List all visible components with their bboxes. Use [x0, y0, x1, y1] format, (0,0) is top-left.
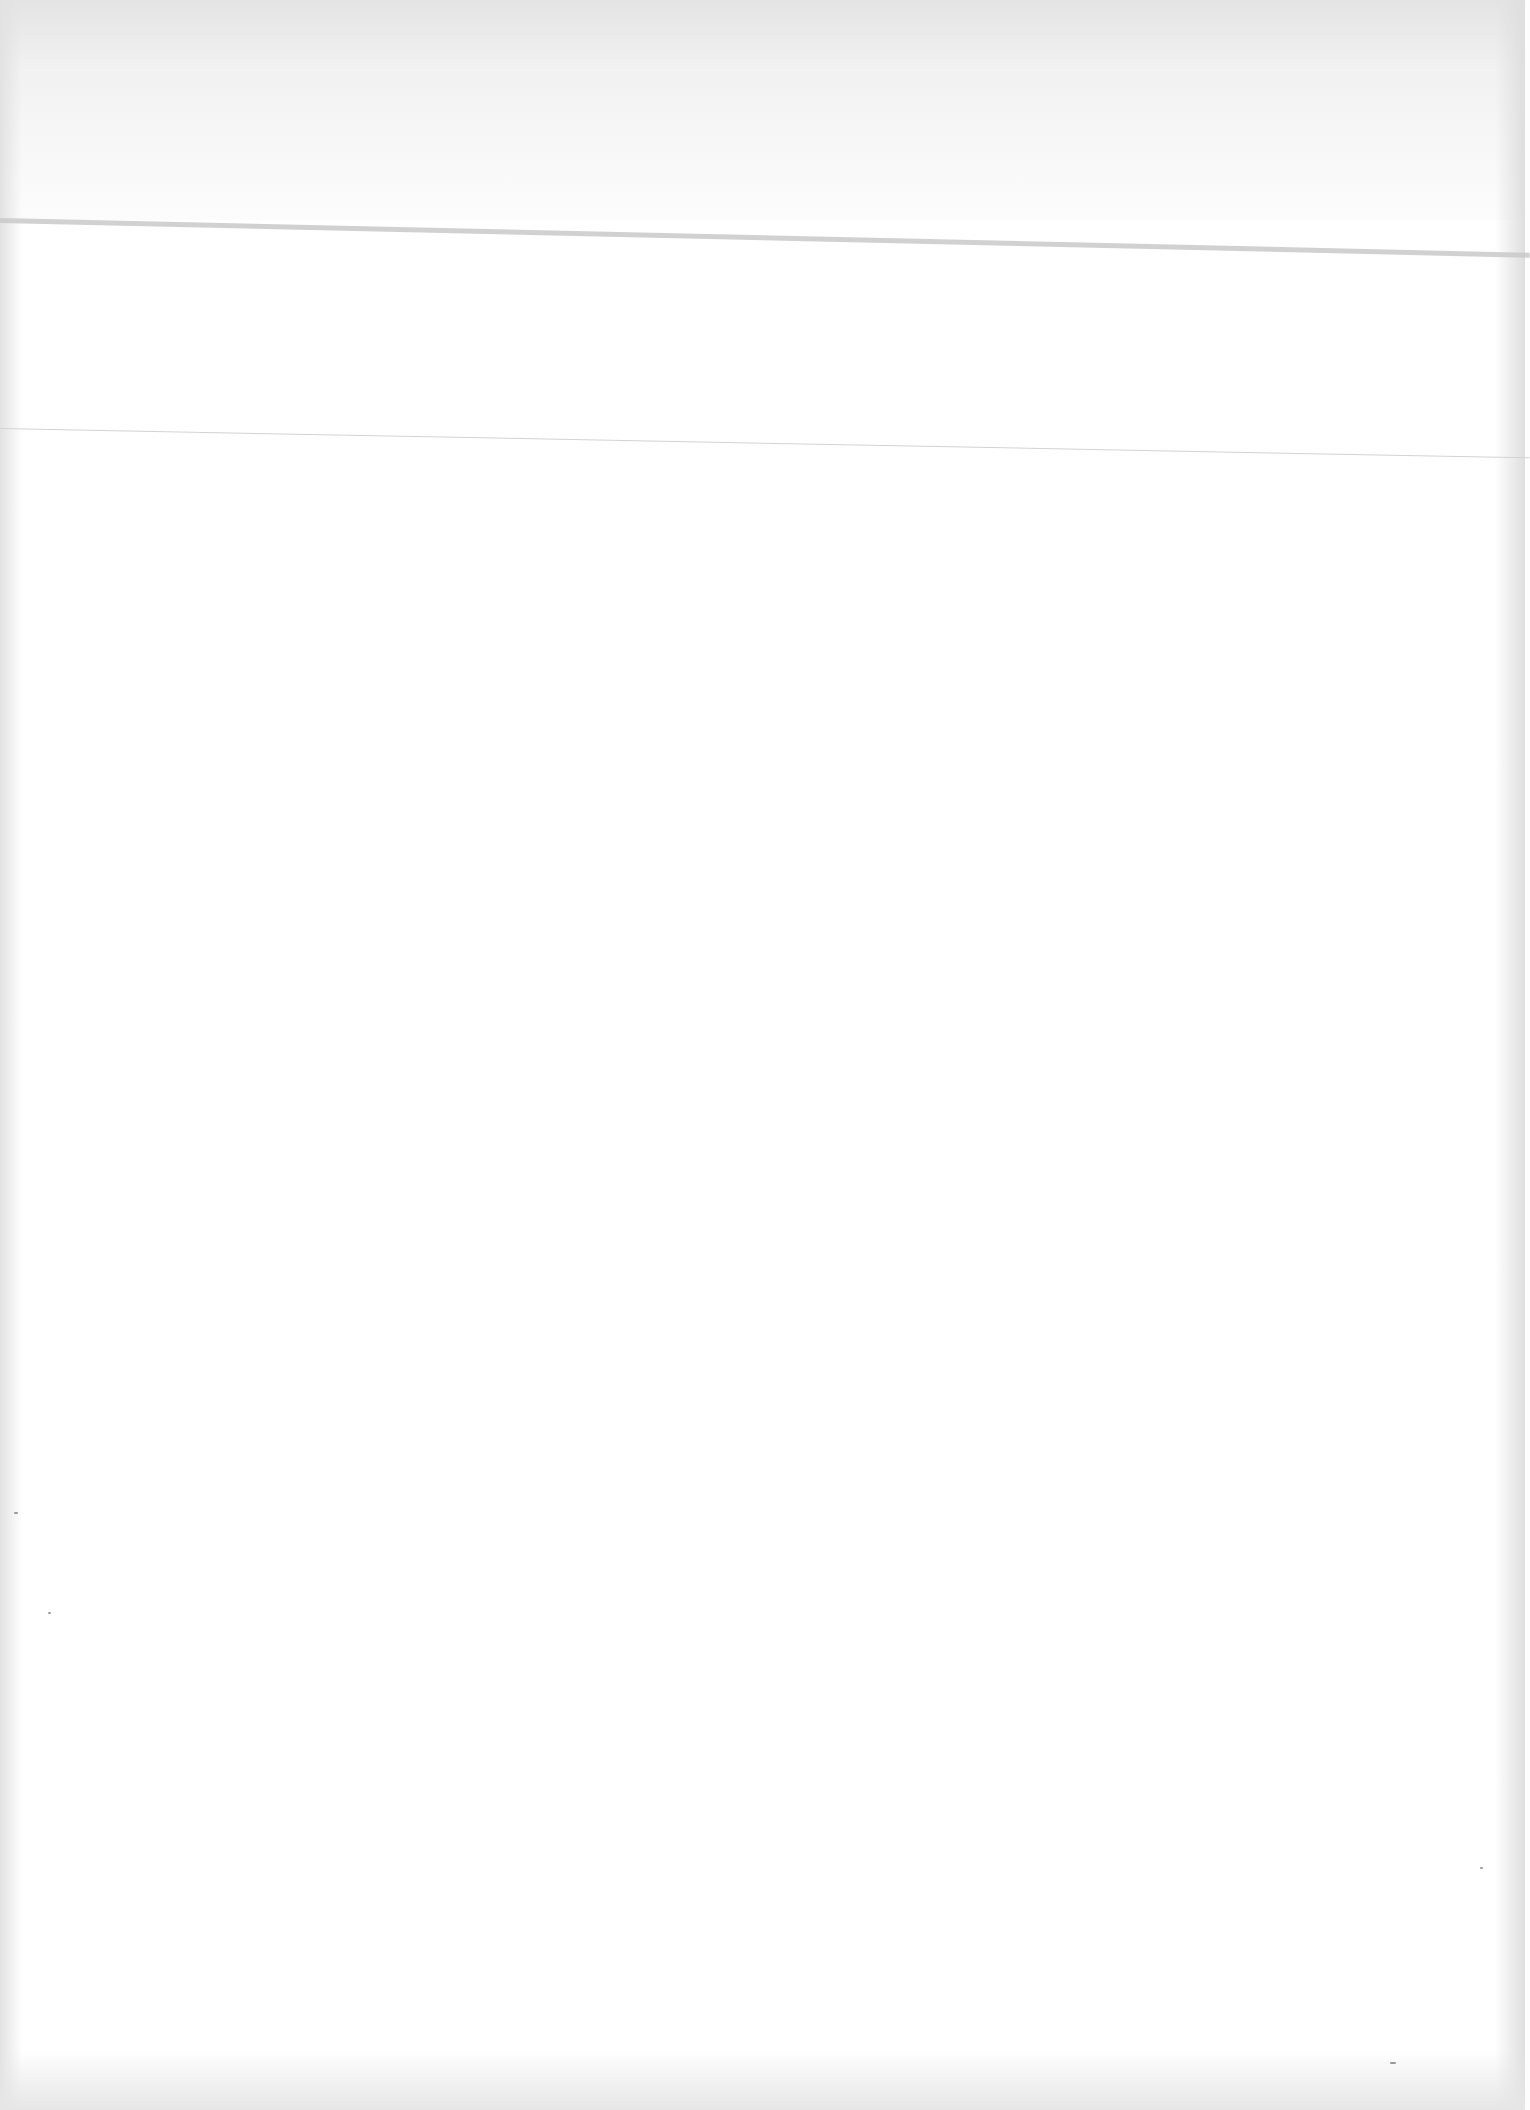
scan-speck	[14, 1512, 18, 1514]
mid-horizontal-rule	[0, 428, 1530, 458]
top-horizontal-rule	[0, 218, 1530, 258]
bottom-edge-shadow	[0, 2050, 1525, 2110]
top-edge-shadow	[0, 0, 1525, 220]
scan-speck	[1390, 2062, 1396, 2064]
left-edge-shadow	[0, 0, 22, 2110]
right-edge-shadow	[1495, 0, 1525, 2110]
scan-speck	[48, 1612, 51, 1614]
scan-speck	[1480, 1867, 1483, 1869]
